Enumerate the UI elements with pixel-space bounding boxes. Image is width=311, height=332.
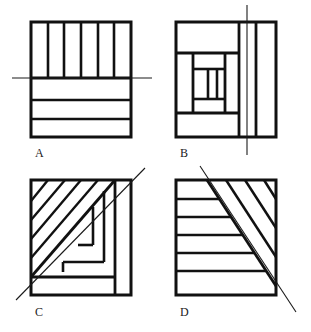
- panel-a-label: A: [35, 146, 44, 160]
- figure-background: [0, 0, 311, 332]
- panel-b-label: B: [180, 146, 188, 160]
- figure-svg: A B: [0, 0, 311, 332]
- panel-c-label: C: [35, 305, 43, 319]
- figure-canvas: A B: [0, 0, 311, 332]
- panel-d-label: D: [180, 305, 189, 319]
